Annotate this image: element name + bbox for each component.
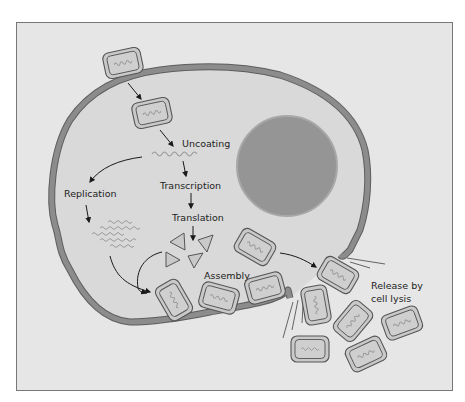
viral-replication-diagram: Uncoating Replication Transcription Tran… (0, 0, 465, 402)
label-transcription: Transcription (159, 180, 221, 191)
virion-released-5 (291, 336, 329, 362)
label-replication: Replication (64, 188, 117, 199)
label-release-line1: Release by (371, 280, 423, 291)
label-translation: Translation (171, 212, 224, 223)
label-release-line2: cell lysis (371, 293, 411, 304)
label-uncoating: Uncoating (182, 138, 230, 149)
label-assembly: Assembly (204, 270, 250, 281)
nucleus (237, 116, 337, 216)
